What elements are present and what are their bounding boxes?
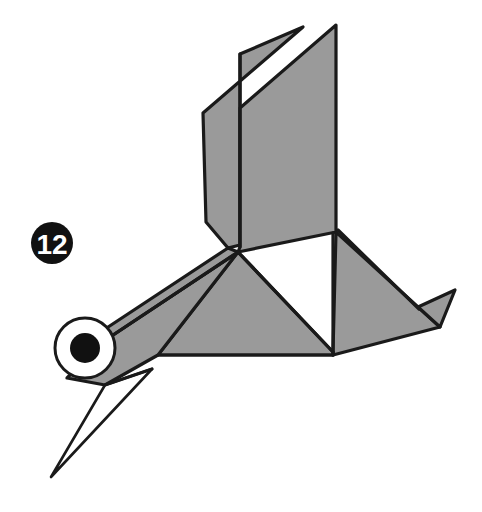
paper-shapes-group: [51, 25, 455, 477]
step-number-badge: 12: [31, 222, 73, 264]
step-badge-label: 12: [36, 229, 67, 260]
body-right-panel: [333, 232, 440, 355]
origami-figure-root: 12: [0, 0, 482, 512]
eye-group: [55, 318, 115, 378]
origami-diagram-canvas: 12: [0, 0, 482, 512]
eye-pupil-circle: [70, 333, 100, 363]
